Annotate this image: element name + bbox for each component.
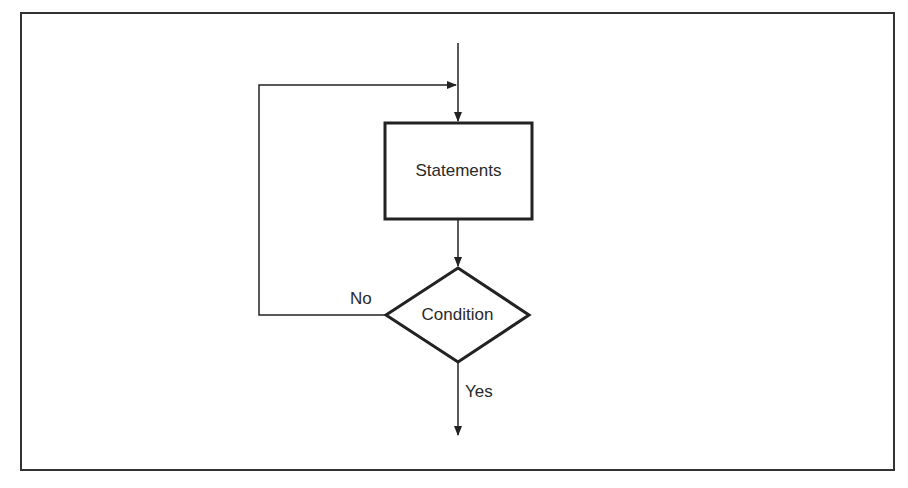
condition-label: Condition: [386, 305, 529, 325]
statements-label: Statements: [385, 161, 532, 181]
flowchart-canvas: [0, 0, 908, 488]
no-label: No: [350, 289, 372, 309]
yes-label: Yes: [465, 382, 493, 402]
